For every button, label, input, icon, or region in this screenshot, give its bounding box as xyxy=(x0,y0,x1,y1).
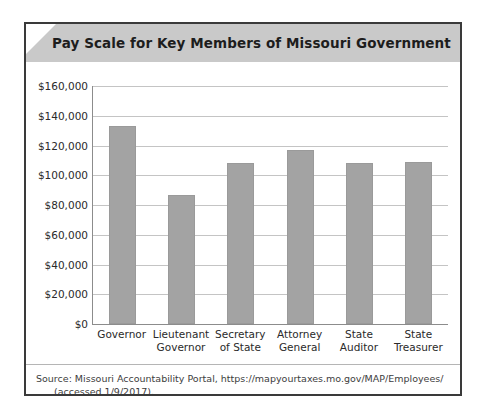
y-axis-tick-label: $40,000 xyxy=(24,259,88,271)
y-axis-tick-label: $60,000 xyxy=(24,229,88,241)
y-axis-tick-labels: $0$20,000$40,000$60,000$80,000$100,000$1… xyxy=(26,62,88,362)
x-axis-tick-label-line: Governor xyxy=(92,328,151,341)
y-axis-tick-label: $140,000 xyxy=(24,110,88,122)
plot-area xyxy=(92,86,448,325)
bar xyxy=(168,195,195,324)
x-axis-tick-label-line: General xyxy=(270,341,329,354)
bar xyxy=(405,162,432,324)
x-axis-tick-label: LieutenantGovernor xyxy=(151,328,210,353)
source-line-2: (accessed 1/9/2017). xyxy=(36,385,450,396)
plot-wrapper: $0$20,000$40,000$60,000$80,000$100,000$1… xyxy=(26,62,460,362)
y-axis-tick-label: $80,000 xyxy=(24,199,88,211)
y-axis-tick-label: $100,000 xyxy=(24,169,88,181)
x-axis-tick-label: Secretaryof State xyxy=(211,328,270,353)
x-axis-tick-label-line: Treasurer xyxy=(389,341,448,354)
bar xyxy=(287,150,314,324)
x-axis-tick-label-line: Attorney xyxy=(270,328,329,341)
y-axis-tick-label: $0 xyxy=(24,318,88,330)
chart-figure: Pay Scale for Key Members of Missouri Go… xyxy=(24,22,462,396)
x-axis-tick-labels: GovernorLieutenantGovernorSecretaryof St… xyxy=(92,328,448,353)
bar xyxy=(227,163,254,324)
x-axis-tick-label-line: Secretary xyxy=(211,328,270,341)
x-axis-tick-label-line: of State xyxy=(211,341,270,354)
title-band: Pay Scale for Key Members of Missouri Go… xyxy=(26,24,460,62)
x-axis-tick-label-line: State xyxy=(329,328,388,341)
bar xyxy=(109,126,136,324)
y-axis-tick-label: $120,000 xyxy=(24,140,88,152)
source-divider xyxy=(26,364,460,365)
x-axis-tick-label-line: Lieutenant xyxy=(151,328,210,341)
bar xyxy=(346,163,373,324)
x-axis-tick-label-line: Governor xyxy=(151,341,210,354)
y-axis-tick-label: $160,000 xyxy=(24,80,88,92)
bar-series xyxy=(93,86,448,324)
x-axis-tick-label-line: Auditor xyxy=(329,341,388,354)
x-axis-tick-label: AttorneyGeneral xyxy=(270,328,329,353)
x-axis-tick-label: StateAuditor xyxy=(329,328,388,353)
x-axis-tick-label-line: State xyxy=(389,328,448,341)
source-line-1: Source: Missouri Accountability Portal, … xyxy=(36,372,450,385)
page-title: Pay Scale for Key Members of Missouri Go… xyxy=(52,24,451,62)
source-note: Source: Missouri Accountability Portal, … xyxy=(36,372,450,396)
x-axis-tick-label: Governor xyxy=(92,328,151,353)
x-axis-tick-label: StateTreasurer xyxy=(389,328,448,353)
y-axis-tick-label: $20,000 xyxy=(24,288,88,300)
